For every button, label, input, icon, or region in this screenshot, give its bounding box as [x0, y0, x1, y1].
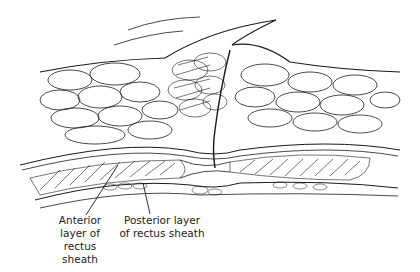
label-line: sheath — [50, 253, 110, 266]
right-fat-lobules — [235, 64, 400, 133]
peritoneum — [40, 193, 398, 208]
incision-line — [214, 50, 231, 168]
right-fat-top — [232, 44, 400, 72]
linea-alba — [180, 160, 230, 178]
label-line: Anterior — [50, 214, 110, 227]
rectus-muscle-right — [230, 155, 370, 180]
label-line: of rectus sheath — [112, 227, 212, 240]
label-line: layer of — [50, 227, 110, 240]
label-line: rectus — [50, 240, 110, 253]
skin-edge-line — [114, 31, 183, 45]
posterior-sheath — [35, 182, 398, 200]
skin-edge-line — [128, 17, 200, 30]
left-fat-lobules — [40, 63, 178, 144]
anterior-sheath-outer — [20, 144, 400, 165]
label-line: Posterior layer — [112, 214, 212, 227]
lifted-flap-outline — [165, 20, 276, 58]
label-anterior-rectus-sheath: Anterior layer of rectus sheath — [50, 214, 110, 266]
left-fat-top — [40, 58, 165, 72]
label-posterior-rectus-sheath: Posterior layer of rectus sheath — [112, 214, 212, 240]
